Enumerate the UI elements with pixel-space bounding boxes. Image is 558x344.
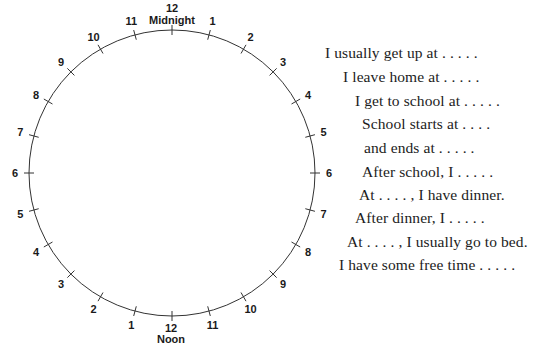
prompt-get-up: I usually get up at . . . . . <box>325 44 478 62</box>
prompt-get-to-school: I get to school at . . . . . <box>355 92 500 110</box>
prompt-school-ends: and ends at . . . . . <box>364 139 475 157</box>
daily-routine-prompts: I usually get up at . . . . . I leave ho… <box>0 0 558 344</box>
prompt-free-time: I have some free time . . . . . <box>339 256 515 274</box>
prompt-after-dinner: After dinner, I . . . . . <box>355 209 485 227</box>
prompt-school-starts: School starts at . . . . <box>362 115 490 133</box>
prompt-leave-home: I leave home at . . . . . <box>343 68 479 86</box>
prompt-dinner: At . . . . , I have dinner. <box>359 186 505 204</box>
prompt-bedtime: At . . . . , I usually go to bed. <box>347 233 528 251</box>
prompt-after-school: After school, I . . . . . <box>362 163 493 181</box>
